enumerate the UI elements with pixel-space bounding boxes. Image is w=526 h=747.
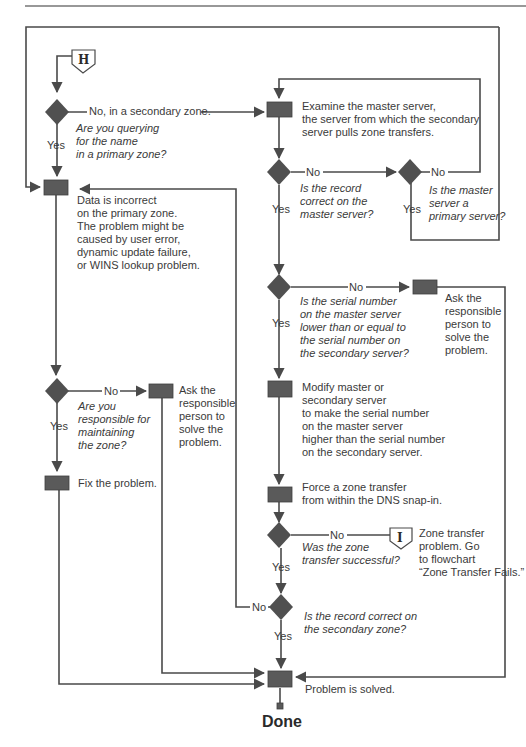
process-data-incorrect[interactable] [44, 180, 68, 195]
flowchart-canvas: H I No, in a secondary zone. Yes No No Y… [0, 0, 526, 747]
decision-record-secondary[interactable] [269, 594, 293, 620]
question-transfer-successful: Was the zone transfer successful? [302, 541, 401, 566]
process-modify-server[interactable] [268, 381, 292, 397]
question-record-secondary: Is the record correct on the secondary z… [304, 610, 420, 635]
svg-text:Yes: Yes [47, 139, 65, 151]
text-examine-master: Examine the master server, the server fr… [302, 100, 482, 138]
connector-h[interactable]: H [72, 50, 95, 73]
process-ask-responsible-right[interactable] [413, 280, 437, 294]
text-ask-responsible-right: Ask the responsible person to solve the … [445, 292, 504, 356]
question-record-master: Is the record correct on the master serv… [300, 182, 374, 220]
svg-text:No: No [330, 529, 344, 541]
svg-text:No: No [431, 166, 445, 178]
svg-text:Yes: Yes [274, 630, 292, 642]
svg-text:No: No [306, 166, 320, 178]
connector-i[interactable]: I [390, 528, 412, 549]
text-fix-problem: Fix the problem. [78, 477, 157, 489]
svg-text:Yes: Yes [50, 420, 68, 432]
svg-text:No: No [252, 601, 266, 613]
decision-master-primary[interactable] [398, 159, 422, 185]
text-force-transfer: Force a zone transfer from within the DN… [302, 481, 442, 506]
question-responsible: Are you responsible for maintaining the … [77, 400, 153, 451]
svg-text:No: No [349, 281, 363, 293]
decision-serial-number[interactable] [267, 274, 291, 300]
process-examine-master[interactable] [267, 102, 292, 117]
decision-responsible[interactable] [45, 378, 69, 404]
svg-text:No: No [104, 385, 118, 397]
text-transfer-problem: Zone transfer problem. Go to flowchart “… [419, 527, 524, 578]
svg-text:H: H [78, 53, 89, 67]
svg-text:I: I [397, 531, 403, 545]
text-modify-server: Modify master or secondary server to mak… [302, 381, 448, 458]
process-problem-solved[interactable] [268, 671, 292, 687]
text-ask-responsible-left: Ask the responsible person to solve the … [179, 384, 238, 448]
decision-primary-zone[interactable] [45, 99, 69, 125]
process-force-transfer[interactable] [268, 487, 292, 502]
decision-transfer-successful[interactable] [267, 522, 291, 548]
svg-text:No, in a secondary zone.: No, in a secondary zone. [89, 105, 211, 117]
text-data-incorrect: Data is incorrect on the primary zone. T… [77, 194, 200, 271]
question-primary-zone: Are you querying for the name in a prima… [75, 122, 167, 160]
svg-text:Yes: Yes [403, 203, 421, 215]
svg-text:Yes: Yes [272, 203, 290, 215]
svg-text:Yes: Yes [272, 561, 290, 573]
question-serial-number: Is the serial number on the master serve… [300, 295, 410, 359]
question-master-primary: Is the master server a primary server? [428, 184, 506, 222]
decision-record-master[interactable] [267, 159, 291, 185]
terminal-done: Done [262, 713, 302, 730]
svg-text:Yes: Yes [272, 317, 290, 329]
text-problem-solved: Problem is solved. [305, 683, 395, 695]
process-fix-problem[interactable] [45, 476, 69, 490]
process-ask-responsible-left[interactable] [149, 384, 173, 398]
